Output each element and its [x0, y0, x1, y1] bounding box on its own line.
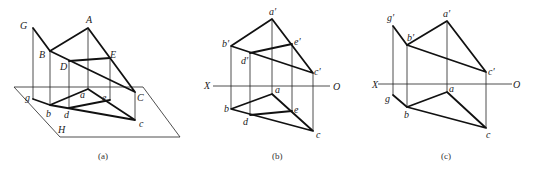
label-a: a — [80, 89, 85, 100]
label-X: X — [371, 79, 379, 90]
line-g-b-h — [33, 99, 50, 105]
label-g: g — [25, 92, 30, 103]
label-O: O — [513, 79, 520, 90]
label-d-prime: d′ — [241, 55, 249, 66]
label-a: a — [449, 83, 454, 94]
line-d-e-h — [250, 111, 292, 115]
caption-a: (a) — [98, 151, 108, 161]
label-d: d — [64, 109, 70, 120]
label-b: b — [46, 108, 51, 119]
label-a: a — [275, 84, 280, 95]
label-O: O — [333, 81, 340, 92]
line-g-b-v — [393, 26, 407, 45]
figure-c: g′ a′ b′ c′ X O a g b c (c) — [371, 8, 520, 161]
line-d-e — [69, 58, 110, 61]
label-b: b — [404, 109, 409, 120]
label-e: e — [102, 92, 107, 103]
line-d-e-v — [250, 44, 292, 53]
label-E: E — [109, 49, 116, 60]
caption-b: (b) — [272, 151, 283, 161]
label-D: D — [59, 61, 68, 72]
label-g: g — [385, 93, 390, 104]
projection-diagram: G A B E D C g a e b d c H (a) a′ b′ e′ d… — [0, 0, 537, 173]
label-C: C — [137, 92, 144, 103]
label-A: A — [85, 14, 93, 25]
label-e: e — [294, 104, 299, 115]
label-e-prime: e′ — [294, 36, 301, 47]
figure-b: a′ b′ e′ d′ c′ X O a b e d c (b) — [203, 6, 340, 161]
label-b: b — [224, 103, 229, 114]
label-H: H — [57, 124, 66, 135]
figure-a: G A B E D C g a e b d c H (a) — [14, 14, 180, 161]
label-G: G — [20, 20, 27, 31]
label-c: c — [316, 129, 321, 140]
caption-c: (c) — [441, 151, 451, 161]
label-a-prime: a′ — [269, 6, 277, 17]
label-c-prime: c′ — [488, 66, 495, 77]
label-c: c — [139, 118, 144, 129]
label-c: c — [486, 129, 491, 140]
triangle-abc-v — [407, 21, 486, 72]
line-g-b-h — [393, 95, 407, 107]
label-X: X — [203, 80, 211, 91]
label-c-prime: c′ — [314, 66, 321, 77]
label-d: d — [243, 116, 249, 127]
label-b-prime: b′ — [407, 32, 415, 43]
line-g-b — [33, 28, 50, 51]
triangle-abc-h — [50, 89, 135, 120]
label-g-prime: g′ — [387, 12, 395, 23]
triangle-abc-h — [407, 92, 486, 128]
label-b-prime: b′ — [222, 38, 230, 49]
label-B: B — [39, 49, 45, 60]
label-a-prime: a′ — [443, 8, 451, 19]
